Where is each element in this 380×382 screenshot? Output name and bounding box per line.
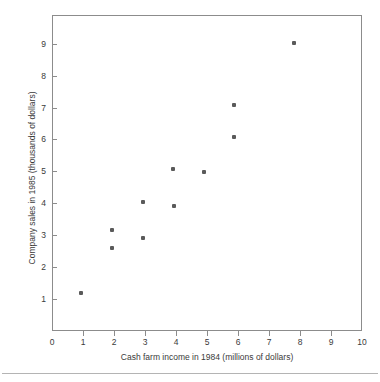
y-tick-mark	[52, 299, 57, 300]
x-tick-label: 9	[321, 337, 341, 347]
x-tick-label: 6	[228, 337, 248, 347]
x-axis-title: Cash farm income in 1984 (millions of do…	[52, 352, 362, 362]
x-tick-label: 8	[290, 337, 310, 347]
x-tick-mark	[269, 331, 270, 336]
x-tick-label: 0	[42, 337, 62, 347]
x-tick-mark	[114, 331, 115, 336]
y-tick-mark	[52, 171, 57, 172]
x-tick-label: 7	[259, 337, 279, 347]
y-tick-mark	[52, 108, 57, 109]
x-tick-mark	[176, 331, 177, 336]
x-tick-label: 1	[73, 337, 93, 347]
x-tick-mark	[300, 331, 301, 336]
x-tick-label: 4	[166, 337, 186, 347]
x-tick-label: 3	[135, 337, 155, 347]
x-tick-label: 10	[352, 337, 372, 347]
y-tick-mark	[52, 139, 57, 140]
y-tick-mark	[52, 76, 57, 77]
x-tick-mark	[238, 331, 239, 336]
y-tick-mark	[52, 44, 57, 45]
y-tick-mark	[52, 267, 57, 268]
x-tick-mark	[145, 331, 146, 336]
y-axis-title: Company sales in 1985 (thousands of doll…	[27, 28, 37, 328]
x-tick-mark	[331, 331, 332, 336]
page-divider-rule	[2, 373, 378, 374]
x-tick-mark	[83, 331, 84, 336]
x-tick-label: 5	[197, 337, 217, 347]
y-tick-mark	[52, 235, 57, 236]
plot-frame	[52, 15, 362, 331]
x-tick-label: 2	[104, 337, 124, 347]
y-tick-mark	[52, 203, 57, 204]
scatter-plot-figure: 012345678910 1234567890 Cash farm income…	[0, 0, 380, 382]
x-tick-mark	[207, 331, 208, 336]
